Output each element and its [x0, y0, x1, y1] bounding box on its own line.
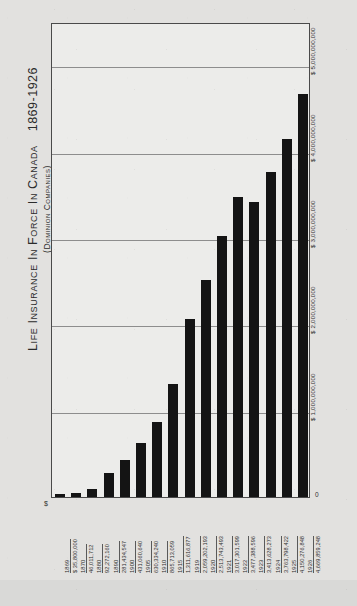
x-axis-tick-label: 187046,011,712 [80, 544, 94, 573]
bar [201, 280, 211, 497]
y-axis-tick-label: $ 1,000,000,000 [309, 373, 316, 421]
bar [298, 94, 308, 497]
x-axis-year: 1890 [113, 541, 119, 573]
plot-area [52, 24, 309, 497]
x-axis-tick-label: 1910865,713,059 [161, 541, 175, 573]
chart-title-text: Life Insurance In Force In Canada [26, 145, 40, 351]
bar [185, 319, 195, 497]
x-axis-amount: 630,334,240 [151, 541, 159, 573]
bar [71, 493, 81, 497]
x-axis-tick-label: 19202,513,743,493 [210, 536, 224, 573]
x-axis-year: 1900 [129, 541, 135, 573]
chart-card: Life Insurance In Force In Canada1869-19… [0, 0, 357, 580]
y-axis-tick-label: $ 4,000,000,000 [309, 114, 316, 162]
x-axis-amount: 4,669,859,248 [313, 536, 321, 573]
bar [120, 460, 130, 497]
x-axis-tick-label: 19192,059,202,193 [194, 536, 208, 573]
x-axis-amount: 4,150,276,848 [297, 536, 305, 573]
x-axis-amount: $ 35,800,000 [70, 539, 78, 573]
x-axis-tick-label: 19213,017,301,599 [226, 536, 240, 573]
x-axis-tick-label: 19254,150,276,848 [291, 536, 305, 573]
x-axis-amount: 3,763,798,422 [281, 536, 289, 573]
x-axis-tick-label: 1905630,334,240 [145, 541, 159, 573]
x-axis-tick-label: 1890281,434,547 [113, 541, 127, 573]
bar [233, 197, 243, 497]
bar [249, 202, 259, 497]
x-axis-amount: 431,060,640 [135, 541, 143, 573]
x-axis-amount: 3,017,301,599 [232, 536, 240, 573]
bar [104, 473, 114, 497]
y-axis-tick-label: $ 5,000,000,000 [309, 27, 316, 75]
bar [266, 172, 276, 497]
bar-series [52, 24, 309, 497]
y-axis-tick-label: $ 3,000,000,000 [309, 200, 316, 248]
x-axis-amount: 865,713,059 [167, 541, 175, 573]
x-axis-tick-label: 19151,311,616,877 [177, 536, 191, 573]
x-axis-amount: 3,413,628,273 [265, 536, 273, 573]
x-axis-amount: 2,513,743,493 [216, 536, 224, 573]
x-axis-amount: 3,477,388,596 [248, 536, 256, 573]
bar [282, 139, 292, 497]
x-axis-amount: 281,434,547 [119, 541, 127, 573]
x-axis-year: 1925 [291, 536, 297, 573]
chart-title-years: 1869-1926 [26, 67, 40, 131]
x-axis-labels: 1869$ 35,800,000187046,011,712188092,272… [51, 499, 310, 579]
x-axis-tick-label: 1900431,060,640 [129, 541, 143, 573]
bar [152, 422, 162, 497]
scan-background: Life Insurance In Force In Canada1869-19… [0, 0, 357, 606]
x-axis-year: 1926 [307, 536, 313, 573]
x-axis-tick-label: 19233,413,628,273 [258, 536, 272, 573]
x-axis-year: 1920 [210, 536, 216, 573]
x-axis-tick-label: 19223,477,388,596 [242, 536, 256, 573]
bar [136, 443, 146, 497]
x-axis-year: 1924 [275, 536, 281, 573]
y-axis-zero-label: 0 [315, 491, 319, 498]
x-axis-tick-label: 1869$ 35,800,000 [64, 539, 78, 573]
x-axis-tick-label: 188092,272,160 [96, 544, 110, 573]
plot-frame [51, 23, 310, 498]
x-axis-amount: 92,272,160 [103, 544, 111, 573]
page-title: Life Insurance In Force In Canada1869-19… [26, 44, 40, 374]
bar [55, 494, 65, 497]
dollar-sign-marker: $ [44, 500, 48, 507]
x-axis-amount: 2,059,202,193 [200, 536, 208, 573]
y-axis-tick-label: $ 2,000,000,000 [309, 287, 316, 335]
x-axis-year: 1919 [194, 536, 200, 573]
bar [217, 236, 227, 497]
x-axis-amount: 46,011,712 [86, 544, 94, 573]
bar [168, 384, 178, 497]
bar [87, 489, 97, 497]
x-axis-tick-label: 19264,669,859,248 [307, 536, 321, 573]
x-axis-amount: 1,311,616,877 [184, 536, 192, 573]
x-axis-tick-label: 19243,763,798,422 [275, 536, 289, 573]
